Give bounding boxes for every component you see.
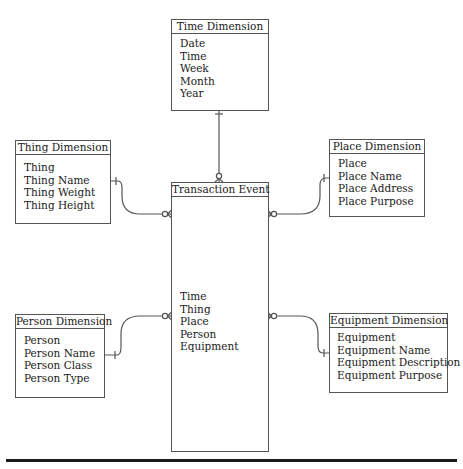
entity-attributes: Date Time Week Month Year xyxy=(172,34,268,100)
entity-attributes: Thing Thing Name Thing Weight Thing Heig… xyxy=(16,155,110,211)
attribute: Equipment Purpose xyxy=(337,369,447,382)
entity-title: Equipment Dimension xyxy=(330,314,447,328)
attribute: Person xyxy=(24,334,104,347)
bottom-rule-divider xyxy=(6,459,457,462)
entity-title: Transaction Event xyxy=(172,183,268,197)
entity-time-dimension[interactable]: Time Dimension Date Time Week Month Year xyxy=(171,19,269,111)
attribute: Place xyxy=(338,157,424,170)
entity-attributes: Person Person Name Person Class Person T… xyxy=(16,329,104,384)
entity-thing-dimension[interactable]: Thing Dimension Thing Thing Name Thing W… xyxy=(15,140,111,224)
entity-title: Person Dimension xyxy=(16,315,104,329)
connector-place-transaction xyxy=(268,174,329,218)
connector-thing-transaction xyxy=(110,177,171,218)
attribute: Person Name xyxy=(24,347,104,360)
attribute: Place xyxy=(180,315,268,328)
attribute: Thing xyxy=(24,161,110,174)
attribute: Date xyxy=(180,37,268,50)
attribute: Equipment xyxy=(337,331,447,344)
attribute: Year xyxy=(180,87,268,100)
attribute: Time xyxy=(180,50,268,63)
entity-attributes: Place Place Name Place Address Place Pur… xyxy=(330,154,424,207)
connector-time-transaction xyxy=(215,110,223,182)
entity-attributes: Time Thing Place Person Equipment xyxy=(172,197,268,353)
entity-equipment-dimension[interactable]: Equipment Dimension Equipment Equipment … xyxy=(329,313,448,393)
entity-attributes: Equipment Equipment Name Equipment Descr… xyxy=(330,328,447,381)
attribute: Person Class xyxy=(24,359,104,372)
attribute: Equipment xyxy=(180,340,268,353)
attribute: Thing Height xyxy=(24,199,110,212)
attribute: Equipment Name xyxy=(337,344,447,357)
attribute: Place Purpose xyxy=(338,195,424,208)
attribute: Person Type xyxy=(24,372,104,385)
connector-equipment-transaction xyxy=(268,313,329,358)
attribute: Place Name xyxy=(338,170,424,183)
attribute: Thing Weight xyxy=(24,186,110,199)
entity-person-dimension[interactable]: Person Dimension Person Person Name Pers… xyxy=(15,314,105,398)
entity-title: Thing Dimension xyxy=(16,141,110,155)
entity-transaction-event[interactable]: Transaction Event Time Thing Place Perso… xyxy=(171,182,269,452)
attribute: Week xyxy=(180,62,268,75)
attribute: Month xyxy=(180,75,268,88)
attribute: Time xyxy=(180,290,268,303)
entity-title: Time Dimension xyxy=(172,20,268,34)
entity-title: Place Dimension xyxy=(330,140,424,154)
attribute: Equipment Description xyxy=(337,356,447,369)
entity-place-dimension[interactable]: Place Dimension Place Place Name Place A… xyxy=(329,139,425,217)
attribute: Person xyxy=(180,328,268,341)
attribute: Thing xyxy=(180,303,268,316)
attribute: Place Address xyxy=(338,182,424,195)
attribute: Thing Name xyxy=(24,174,110,187)
connector-person-transaction xyxy=(104,313,171,360)
